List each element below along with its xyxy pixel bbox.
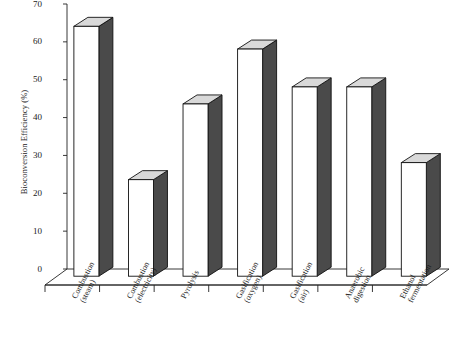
x-tick-label-5: Gasification(air)	[288, 260, 323, 304]
x-axis-category-labels: Combustion(steam)Combustion(electricity)…	[0, 0, 461, 357]
x-tick-label-line1: Pyrolysis	[179, 269, 201, 300]
x-tick-label-4: Gasification(oxygen)	[234, 260, 269, 304]
x-tick-label-6: Anaerobicdigestion	[343, 266, 375, 305]
x-tick-label-1: Combustion(steam)	[70, 260, 105, 304]
x-tick-label-7: Ethanolfermentation	[398, 259, 434, 305]
x-tick-label-3: Pyrolysis	[179, 269, 201, 300]
bar-chart: Bioconversion Efficiency (%) 01020304050…	[0, 0, 461, 357]
x-tick-label-2: Combustion(electricity)	[125, 260, 160, 304]
